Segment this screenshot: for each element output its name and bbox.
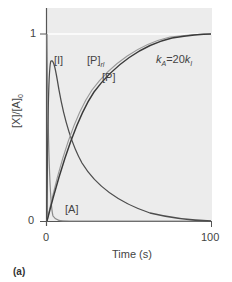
x-tick-label-0: 0 [43, 231, 49, 243]
x-tick-label-100: 100 [201, 231, 219, 243]
y-tick-label-0: 0 [28, 214, 34, 226]
x-axis-label: Time (s) [112, 248, 152, 260]
y-axis-label: [X]/[A]0 [10, 94, 24, 128]
label-A: [A] [65, 203, 78, 215]
panel-label: (a) [13, 266, 25, 277]
rate-constant-annotation: kA=20kI [156, 53, 192, 67]
label-I: [I] [54, 54, 63, 66]
label-Prl: [P]rl [87, 54, 104, 68]
y-tick-label-1: 1 [30, 27, 36, 39]
chart-svg [0, 0, 232, 282]
label-P: [P] [102, 71, 115, 83]
